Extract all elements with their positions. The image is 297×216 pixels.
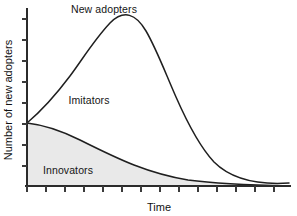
chart-canvas: New adopters Imitators Innovators Time N… [0,0,297,216]
bass-diffusion-chart: New adopters Imitators Innovators Time N… [0,0,297,216]
annotation-innovators: Innovators [43,164,93,176]
x-axis-title: Time [147,201,171,213]
annotation-imitators: Imitators [68,94,109,106]
annotation-new-adopters: New adopters [71,3,137,15]
innovators-area [27,123,289,186]
y-axis-title: Number of new adopters [2,39,14,160]
x-axis-ticks [27,186,274,192]
